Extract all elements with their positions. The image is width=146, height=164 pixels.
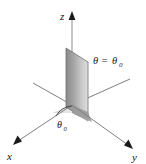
plane-label-theta: θ	[93, 55, 98, 66]
coordinate-system-diagram: z x y θ = θ 0 θ 0	[0, 0, 146, 164]
y-axis-label: y	[131, 151, 137, 163]
figure-container: z x y θ = θ 0 θ 0	[0, 0, 146, 164]
plane-label-equals: =	[101, 55, 108, 66]
z-axis-label: z	[59, 10, 65, 22]
x-axis-label: x	[6, 150, 12, 162]
plane-label-theta-sub: θ	[112, 55, 117, 66]
angle-label-theta: θ	[57, 119, 62, 130]
plane-label-subscript: 0	[119, 61, 123, 69]
